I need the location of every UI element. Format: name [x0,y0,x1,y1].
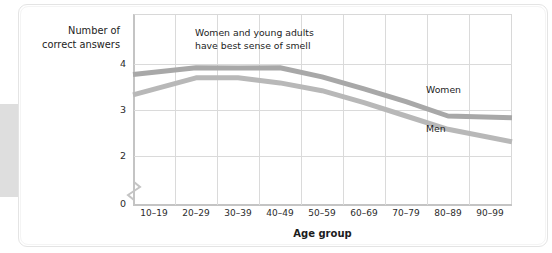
series-label-women: Women [426,84,461,95]
series-label-men: Men [426,123,446,134]
chart-annotation: Women and young adults have best sense o… [195,26,314,52]
x-axis-title: Age group [133,228,512,239]
